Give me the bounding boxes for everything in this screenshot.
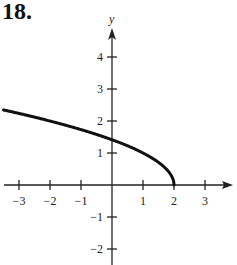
x-tick-label: 3 — [202, 194, 208, 208]
y-tick-label: −1 — [90, 210, 103, 224]
function-curve — [4, 110, 175, 185]
y-tick-label: 3 — [97, 82, 103, 96]
y-tick-label: 1 — [97, 146, 103, 160]
x-tick-label: 2 — [171, 194, 177, 208]
y-axis-label: y — [108, 12, 115, 26]
axes — [4, 28, 233, 265]
x-tick-label: −3 — [13, 194, 26, 208]
y-tick-label: 4 — [97, 50, 103, 64]
x-tick-label: 1 — [140, 194, 146, 208]
graph: −3−2−11234321−1−2 y — [0, 0, 237, 265]
y-tick-label: −2 — [90, 242, 103, 256]
x-tick-label: −2 — [44, 194, 57, 208]
x-tick-label: −1 — [75, 194, 88, 208]
y-tick-label: 2 — [97, 114, 103, 128]
